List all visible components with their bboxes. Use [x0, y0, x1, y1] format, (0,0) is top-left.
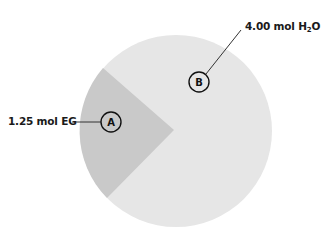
label-water-text: 4.00 mol H	[245, 20, 307, 32]
label-eg-text: 1.25 mol EG	[8, 115, 77, 127]
label-eg: 1.25 mol EG	[8, 115, 77, 127]
svg-text:B: B	[195, 77, 203, 88]
svg-text:A: A	[107, 117, 115, 128]
label-water-text-end: O	[311, 20, 320, 32]
label-water: 4.00 mol H2O	[245, 20, 320, 32]
